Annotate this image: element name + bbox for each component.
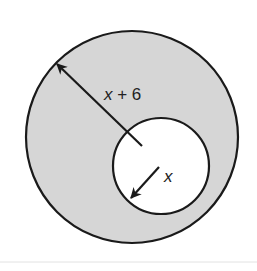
inner-radius-label: x — [163, 167, 173, 186]
outer-radius-label: x + 6 — [103, 85, 141, 104]
outer-radius-offset: + 6 — [113, 85, 142, 104]
annulus-diagram: x + 6 x — [0, 0, 257, 271]
outer-radius-var: x — [103, 85, 113, 104]
